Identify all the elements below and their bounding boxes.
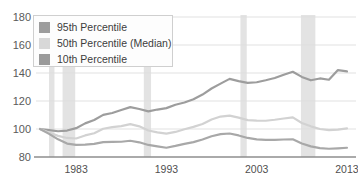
x-axis-tick-label: 2003 bbox=[245, 163, 269, 175]
y-axis-tick-label: 80 bbox=[19, 151, 31, 163]
legend-swatch-median bbox=[39, 38, 50, 49]
legend-swatch-10th bbox=[39, 54, 50, 65]
legend-item-10th: 10th Percentile bbox=[39, 51, 167, 67]
x-axis-tick-label: 1983 bbox=[64, 163, 88, 175]
x-axis-tick-label: 1993 bbox=[155, 163, 179, 175]
y-axis-tick-label: 100 bbox=[13, 123, 31, 135]
series-line-1 bbox=[40, 116, 347, 139]
legend-swatch-95th bbox=[39, 22, 50, 33]
y-axis-tick-label: 180 bbox=[13, 11, 31, 23]
y-axis-tick-label: 120 bbox=[13, 95, 31, 107]
recession-band bbox=[301, 15, 315, 157]
series-line-2 bbox=[40, 129, 347, 149]
chart-container: 180160140120100801983199320032013 95th P… bbox=[0, 0, 358, 180]
y-axis-tick-label: 140 bbox=[13, 67, 31, 79]
legend-item-median: 50th Percentile (Median) bbox=[39, 35, 167, 51]
legend-label-median: 50th Percentile (Median) bbox=[57, 37, 171, 49]
x-axis-tick-label: 2013 bbox=[335, 163, 358, 175]
legend-label-10th: 10th Percentile bbox=[57, 53, 127, 65]
legend-item-95th: 95th Percentile bbox=[39, 19, 167, 35]
chart-legend: 95th Percentile 50th Percentile (Median)… bbox=[33, 15, 173, 67]
y-axis-tick-label: 160 bbox=[13, 39, 31, 51]
legend-label-95th: 95th Percentile bbox=[57, 21, 127, 33]
